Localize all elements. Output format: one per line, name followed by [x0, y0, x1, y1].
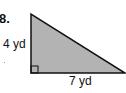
stray-mark: [4, 62, 5, 63]
triangle-shape: [31, 14, 125, 73]
vertical-leg-label: 4 yd: [3, 37, 26, 51]
horizontal-leg-label: 7 yd: [69, 74, 92, 88]
